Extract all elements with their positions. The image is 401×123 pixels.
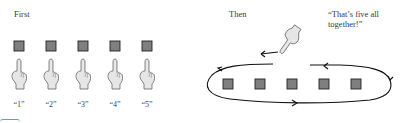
pointing-hand-icon (12, 59, 27, 89)
pointing-hand-icon (44, 59, 59, 89)
counted-square-1 (14, 41, 24, 51)
count-label-1: “1” (7, 100, 31, 109)
pointing-hand-down-icon (275, 23, 305, 57)
speech-line-2: together!” (328, 19, 362, 29)
speech-line-1: “That’s five all (328, 9, 379, 19)
accent-line (0, 119, 20, 122)
pointing-hand-icon (108, 59, 123, 89)
counted-square-4 (110, 41, 120, 51)
grouped-square-4 (319, 79, 329, 89)
counted-square-5 (142, 41, 152, 51)
speech-text: “That’s five all together!” (328, 10, 400, 30)
count-label-2: “2” (39, 100, 63, 109)
encircling-loop (207, 63, 393, 106)
count-label-5: “5” (135, 100, 159, 109)
motion-arrow-icon (261, 51, 278, 57)
counted-square-2 (46, 41, 56, 51)
pointing-hand-icon (76, 59, 91, 89)
then-heading: Then (229, 10, 246, 20)
count-label-4: “4” (103, 100, 127, 109)
grouped-square-2 (255, 79, 265, 89)
grouped-square-5 (351, 79, 361, 89)
grouped-squares (223, 79, 361, 89)
counted-square-3 (78, 41, 88, 51)
pointing-hand-icon (140, 59, 155, 89)
grouped-square-3 (287, 79, 297, 89)
grouped-square-1 (223, 79, 233, 89)
counting-sequence (12, 41, 155, 89)
count-label-3: “3” (71, 100, 95, 109)
